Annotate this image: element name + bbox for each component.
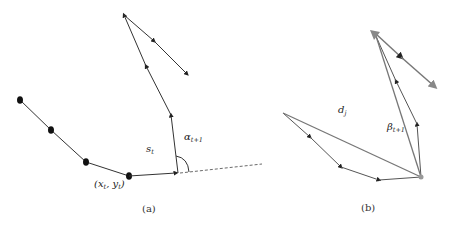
pivot-point bbox=[419, 175, 424, 180]
segment-label: st bbox=[146, 143, 154, 156]
caption-b: (b) bbox=[361, 202, 375, 213]
direction-line bbox=[376, 34, 434, 86]
distance-label: dj bbox=[338, 104, 346, 117]
panel-b: dj βt+1 (b) bbox=[283, 30, 434, 213]
apex-top-marker bbox=[370, 30, 380, 40]
caption-a: (a) bbox=[142, 203, 156, 214]
segment-path bbox=[124, 15, 187, 176]
beta-label: βt+1 bbox=[386, 121, 405, 134]
extension-dashed-line bbox=[180, 164, 262, 173]
alpha-label: αt+1 bbox=[184, 131, 203, 144]
raw-trajectory bbox=[20, 100, 129, 176]
trajectory-diagram: st αt+1 (xt, yt) (a) dj βt+1 (b) bbox=[0, 0, 453, 227]
panel-a: st αt+1 (xt, yt) (a) bbox=[17, 15, 262, 214]
point-label: (xt, yt) bbox=[94, 178, 125, 191]
trajectory-points bbox=[17, 96, 132, 180]
